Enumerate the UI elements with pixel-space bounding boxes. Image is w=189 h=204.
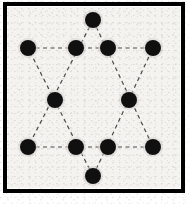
vertex-dot [85, 168, 101, 184]
vertex-dot [100, 139, 116, 155]
hexagram-canvas [0, 0, 189, 204]
vertex-dot [47, 92, 63, 108]
vertex-dot [121, 92, 137, 108]
vertex-dot [68, 40, 84, 56]
hexagram-figure [0, 0, 189, 204]
vertex-dot [20, 139, 36, 155]
paper-plate [8, 7, 180, 188]
vertex-dot [145, 40, 161, 56]
vertex-dot [20, 40, 36, 56]
vertex-dot [85, 12, 101, 28]
vertex-dot [100, 40, 116, 56]
vertex-dot [68, 139, 84, 155]
vertex-dot [145, 139, 161, 155]
